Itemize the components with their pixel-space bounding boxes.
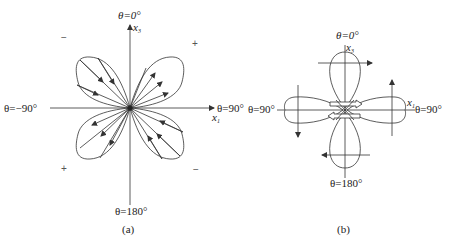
panel-a-sign-top-right: + [192, 38, 198, 49]
panel-b-bottom-label: θ=180° [330, 177, 362, 189]
panel-a-lobe-top-left [76, 57, 130, 108]
panel-b-x1-label: x1 [406, 96, 415, 109]
panel-b-right-label: θ=90° [415, 103, 442, 115]
panel-a-caption: (a) [122, 223, 135, 236]
panel-a-labels: θ=0° x3 θ=−90° θ=90° x1 θ=180° (a) − + +… [4, 9, 244, 236]
panel-a-lobe-bottom-left [76, 108, 130, 159]
panel-b-caption: (b) [337, 223, 350, 236]
panel-a-lobe-top-right [130, 57, 184, 108]
panel-a-top-label: θ=0° [118, 9, 141, 21]
panel-a-x3-label: x3 [132, 21, 141, 34]
panel-b-top-label: θ=0° [336, 29, 359, 41]
panel-a-right-label: θ=90° [217, 102, 244, 114]
panel-a-diagram [50, 25, 214, 205]
panel-a-lobe-bottom-right [130, 108, 184, 159]
panel-b-x3-label: x3 [345, 41, 354, 54]
figure: θ=0° x3 θ=−90° θ=90° x1 θ=180° (a) − + +… [0, 0, 453, 246]
panel-a-sign-top-left: − [61, 32, 67, 43]
panel-a-bottom-label: θ=180° [115, 205, 147, 217]
panel-a-sign-bottom-right: − [193, 164, 199, 175]
panel-a-sign-bottom-left: + [61, 163, 67, 174]
panel-a-left-label: θ=−90° [4, 102, 37, 114]
panel-b-diagram [277, 45, 415, 178]
panel-b-left-label: θ=90° [248, 103, 275, 115]
